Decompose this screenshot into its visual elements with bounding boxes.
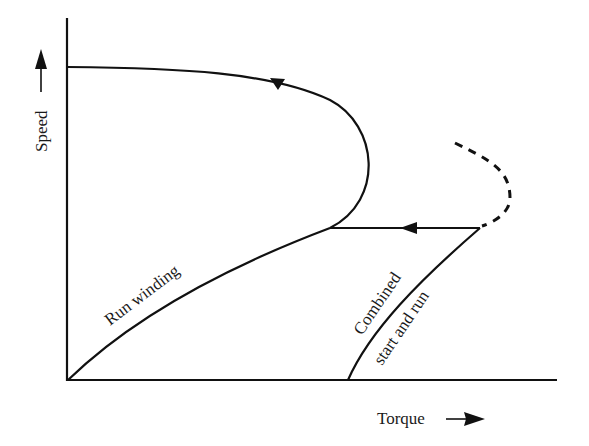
torque-speed-diagram: Run winding Combined start and run Speed… — [0, 0, 589, 446]
run-winding-label: Run winding — [101, 261, 183, 330]
dashed-curve — [455, 143, 510, 226]
arrow-icon-transition — [400, 222, 417, 234]
run-winding-curve — [67, 67, 369, 380]
torque-arrow-icon — [446, 412, 485, 426]
y-axis-label: Speed — [32, 110, 51, 152]
speed-arrow-icon — [35, 49, 47, 92]
x-axis-label: Torque — [377, 409, 425, 428]
